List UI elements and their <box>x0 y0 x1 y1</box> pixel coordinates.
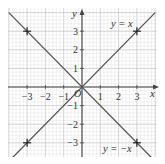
x-axis-label: x <box>149 87 155 99</box>
line-label-y-equals-x: y = x <box>110 18 133 29</box>
coordinate-plot: x y O y = x y = −x −3−2−1123−3−2−1123 <box>0 0 165 164</box>
y-tick-label: 2 <box>73 44 78 55</box>
x-tick-label: −3 <box>22 91 33 102</box>
x-tick-label: 1 <box>98 91 103 102</box>
y-tick-label: 1 <box>73 63 78 74</box>
y-axis-label: y <box>71 7 77 19</box>
y-tick-label: −2 <box>67 119 78 130</box>
x-tick-label: 3 <box>134 91 139 102</box>
y-axis-arrow-icon <box>80 9 85 15</box>
line-label-y-equals-neg-x: y = −x <box>102 143 132 154</box>
x-tick-label: −2 <box>40 91 51 102</box>
y-tick-label: −3 <box>67 137 78 148</box>
labels: x y O y = x y = −x <box>71 7 155 154</box>
y-tick-label: −1 <box>67 100 78 111</box>
origin-label: O <box>74 88 81 99</box>
x-tick-label: 2 <box>116 91 121 102</box>
y-tick-label: 3 <box>73 26 78 37</box>
